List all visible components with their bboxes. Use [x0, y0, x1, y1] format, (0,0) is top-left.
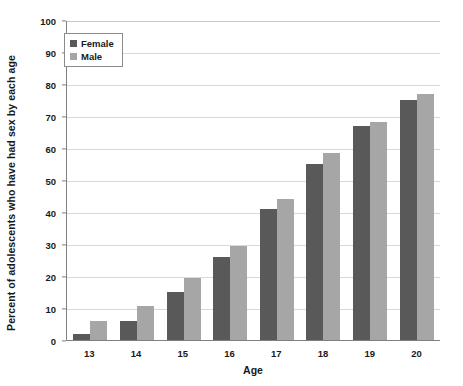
legend-item-female: Female — [70, 38, 114, 49]
y-axis-tick-label: 0 — [51, 336, 56, 347]
x-axis-tick-label: 18 — [300, 343, 347, 363]
bar-groups — [67, 21, 440, 340]
bar-group-18 — [300, 21, 347, 340]
bar-group-15 — [160, 21, 207, 340]
x-axis-tick-label: 17 — [253, 343, 300, 363]
x-axis-tick-label: 19 — [347, 343, 394, 363]
bar-group-14 — [114, 21, 161, 340]
x-axis-tick-label: 13 — [66, 343, 113, 363]
y-axis-title: Percent of adolescents who have had sex … — [0, 0, 22, 386]
bar-female-13 — [73, 334, 90, 340]
y-axis-tick-label: 80 — [45, 80, 56, 91]
x-axis-tick-label: 16 — [206, 343, 253, 363]
bar-female-16 — [213, 257, 230, 340]
bar-male-16 — [230, 246, 247, 340]
bar-group-16 — [207, 21, 254, 340]
x-axis-tick-label: 20 — [393, 343, 440, 363]
bar-female-20 — [400, 100, 417, 340]
bar-chart: Percent of adolescents who have had sex … — [0, 0, 463, 386]
y-axis-tick-label: 60 — [45, 144, 56, 155]
x-axis-title: Age — [66, 364, 440, 376]
plot-area — [66, 21, 440, 341]
bar-group-17 — [254, 21, 301, 340]
bar-group-13 — [67, 21, 114, 340]
y-axis-tick-label: 90 — [45, 48, 56, 59]
y-axis-tick-label: 30 — [45, 240, 56, 251]
legend-label: Female — [81, 38, 114, 49]
legend-item-male: Male — [70, 51, 114, 62]
bar-group-19 — [347, 21, 394, 340]
legend-label: Male — [81, 51, 102, 62]
bar-male-14 — [137, 306, 154, 340]
bar-female-17 — [260, 209, 277, 340]
y-axis-tick-label: 70 — [45, 112, 56, 123]
x-axis-tick-labels: 1314151617181920 — [66, 343, 440, 363]
bar-male-13 — [90, 321, 107, 340]
x-axis-tick-label: 14 — [113, 343, 160, 363]
bar-female-14 — [120, 321, 137, 340]
bar-male-20 — [417, 94, 434, 340]
y-axis-tick-label: 100 — [40, 16, 56, 27]
chart-legend: FemaleMale — [64, 33, 123, 67]
bar-male-18 — [323, 153, 340, 340]
legend-swatch-icon — [70, 53, 77, 60]
bar-male-19 — [370, 122, 387, 340]
y-axis-tick-label: 10 — [45, 304, 56, 315]
bar-group-20 — [393, 21, 440, 340]
x-axis-tick-label: 15 — [160, 343, 207, 363]
y-axis-tick-label: 50 — [45, 176, 56, 187]
legend-swatch-icon — [70, 40, 77, 47]
bar-female-15 — [167, 292, 184, 340]
bar-female-19 — [353, 126, 370, 340]
y-axis-tick-label: 20 — [45, 272, 56, 283]
y-axis-tick-label: 40 — [45, 208, 56, 219]
bar-female-18 — [306, 164, 323, 340]
bar-male-17 — [277, 199, 294, 340]
bar-male-15 — [184, 278, 201, 340]
